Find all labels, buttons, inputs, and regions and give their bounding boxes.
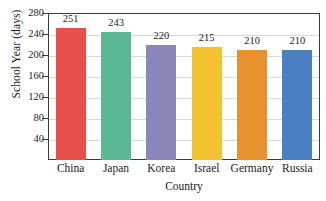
- x-tick-label: China: [48, 163, 93, 175]
- bar-slot: [93, 13, 138, 160]
- bar[interactable]: [237, 50, 267, 160]
- bar-value-label: 243: [108, 18, 124, 29]
- bar[interactable]: [101, 32, 131, 160]
- x-tick-label: Germany: [229, 163, 274, 175]
- x-tick-label: Japan: [93, 163, 138, 175]
- y-tick-label: 280: [4, 8, 44, 19]
- bar-chart: School Year (days) 4080120160200240280 2…: [0, 0, 326, 201]
- y-tick-label: 200: [4, 50, 44, 61]
- bar-slot: [48, 13, 93, 160]
- x-tick-label: Israel: [184, 163, 229, 175]
- x-axis-title: Country: [48, 180, 320, 192]
- bar[interactable]: [282, 50, 312, 160]
- y-tick-label: 40: [4, 134, 44, 145]
- y-tick-label: 120: [4, 92, 44, 103]
- bar[interactable]: [192, 47, 222, 160]
- bars-group: [48, 13, 320, 160]
- x-tick-label: Korea: [139, 163, 184, 175]
- bar-value-label: 215: [199, 33, 215, 44]
- y-tick-label: 160: [4, 71, 44, 82]
- y-tick-label: 80: [4, 113, 44, 124]
- bar-value-label: 210: [244, 36, 260, 47]
- x-tick-label: Russia: [275, 163, 320, 175]
- bar[interactable]: [146, 45, 176, 161]
- bar-value-label: 210: [289, 36, 305, 47]
- y-tick-label: 240: [4, 29, 44, 40]
- bar-value-label: 220: [153, 31, 169, 42]
- bar-value-label: 251: [63, 14, 79, 25]
- bar[interactable]: [56, 28, 86, 160]
